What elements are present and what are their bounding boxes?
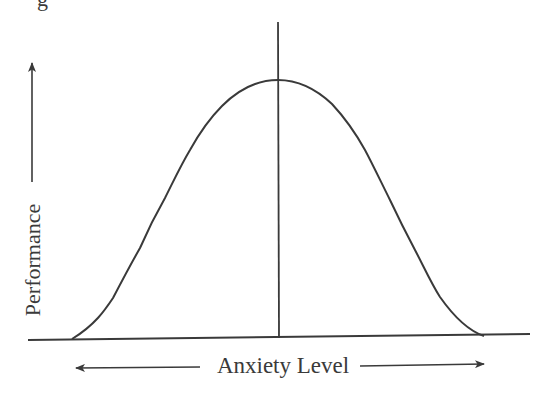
anxiety-right-arrow-icon [360,364,484,366]
y-axis-label: Performance [20,204,46,316]
anxiety-left-arrow-icon [76,367,200,368]
peak-vertical-line [278,22,279,338]
yerkes-dodson-diagram: g Performance Anxiety Level [0,0,548,406]
diagram-graphics [0,0,548,406]
x-axis-label: Anxiety Level [217,353,349,379]
